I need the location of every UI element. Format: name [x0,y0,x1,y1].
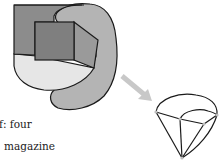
vertex-dot [180,156,183,159]
vertex-dot [202,122,205,125]
cube-front-face [35,22,74,60]
caption-fragment-1: f: four [0,119,32,130]
vertex-dot [215,113,218,116]
edge [182,115,217,158]
vertex-dot [154,110,157,113]
edge [182,124,204,158]
edge [180,119,182,158]
diagram-figure [0,0,224,162]
arrow-shaft [122,76,146,96]
right-shape [154,94,218,159]
transform-arrow [122,76,152,101]
cone-inner-curve [180,110,217,119]
vertex-dot [178,117,181,120]
left-shape [14,4,117,110]
caption-fragment-2: magazine [4,141,55,152]
edge [180,119,204,124]
